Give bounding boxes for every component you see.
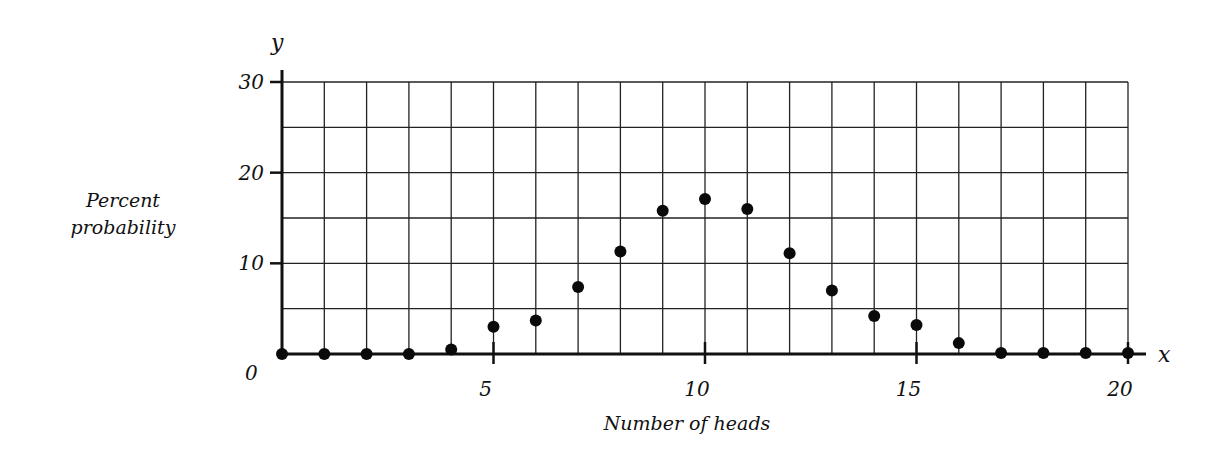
y-tick-label: 20 [238, 161, 265, 185]
data-point [826, 285, 838, 297]
svg-text:Percent: Percent [85, 189, 160, 211]
y-axis-label: Percent probability [71, 189, 176, 238]
x-tick-label: 15 [896, 377, 921, 401]
x-tick-label: 5 [479, 377, 492, 401]
origin-label: 0 [245, 361, 258, 385]
data-point [530, 314, 542, 326]
data-point [868, 310, 880, 322]
grid-lines [282, 82, 1128, 354]
data-point [445, 343, 457, 355]
data-point [488, 321, 500, 333]
data-point [403, 348, 415, 360]
data-point [741, 203, 753, 215]
data-point [995, 347, 1007, 359]
y-tick-label: 10 [239, 251, 265, 275]
data-point [657, 205, 669, 217]
y-axis-symbol: y [270, 30, 284, 55]
data-point [699, 193, 711, 205]
x-tick-label: 10 [684, 377, 710, 401]
data-point [953, 337, 965, 349]
data-point [911, 319, 923, 331]
data-point [1080, 347, 1092, 359]
data-point [1037, 347, 1049, 359]
data-point [784, 247, 796, 259]
data-point [276, 348, 288, 360]
x-axis-label: Number of heads [603, 412, 771, 434]
y-tick-label: 30 [239, 70, 265, 94]
data-point [1122, 347, 1134, 359]
x-axis-symbol: x [1158, 342, 1171, 367]
data-point [614, 246, 626, 258]
data-point [572, 281, 584, 293]
x-tick-label: 20 [1106, 377, 1133, 401]
svg-text:probability: probability [71, 216, 176, 238]
data-point [361, 348, 373, 360]
data-point [318, 348, 330, 360]
binomial-probability-chart: 1020305101520 y x 0 Percent probability … [0, 0, 1230, 453]
axes [270, 70, 1146, 364]
